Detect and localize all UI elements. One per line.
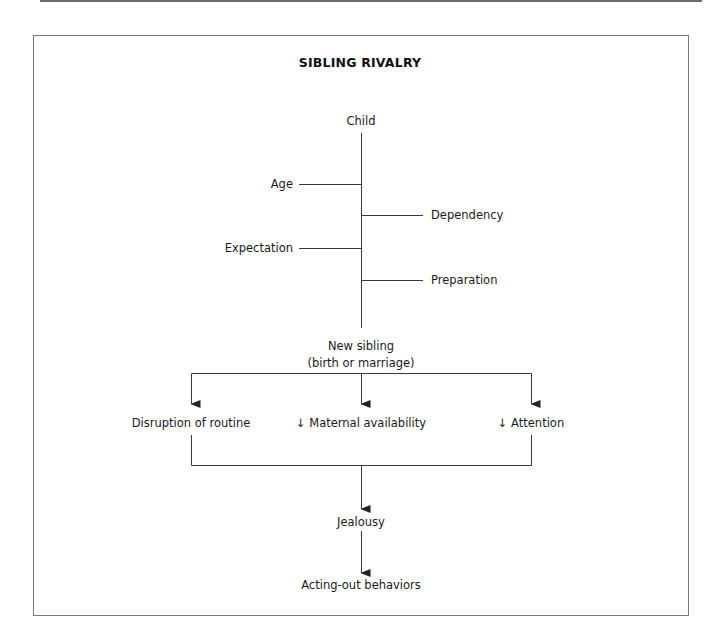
factor-dependency: Dependency bbox=[431, 208, 503, 222]
factor-expectation: Expectation bbox=[225, 241, 293, 255]
node-child: Child bbox=[346, 114, 375, 128]
node-jealousy: Jealousy bbox=[337, 515, 385, 529]
node-new-sibling-detail: (birth or marriage) bbox=[307, 356, 414, 370]
connector-lines bbox=[0, 0, 719, 643]
effect-disruption-of-routine: Disruption of routine bbox=[132, 416, 251, 430]
factor-age: Age bbox=[271, 177, 293, 191]
effect-maternal-availability: ↓ Maternal availability bbox=[296, 416, 426, 430]
diagram-title: SIBLING RIVALRY bbox=[299, 55, 422, 70]
node-new-sibling: New sibling bbox=[328, 339, 394, 353]
effect-attention: ↓ Attention bbox=[498, 416, 564, 430]
factor-preparation: Preparation bbox=[431, 273, 497, 287]
node-acting-out-behaviors: Acting-out behaviors bbox=[301, 578, 421, 592]
